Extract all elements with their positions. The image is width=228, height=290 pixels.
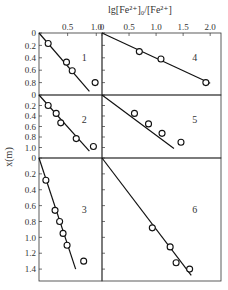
y-axis-title: x(m) bbox=[3, 147, 15, 166]
chart-canvas: lg[Fe²⁺]₀/[Fe²⁺]x(m)00.20.40.60.80.51.01… bbox=[0, 0, 228, 290]
data-point bbox=[159, 130, 165, 136]
data-point bbox=[173, 260, 179, 266]
x-tick-label: 1.0 bbox=[150, 22, 162, 32]
data-point bbox=[90, 143, 96, 149]
y-tick-label: 0.2 bbox=[25, 101, 36, 111]
data-point bbox=[45, 41, 51, 47]
panel-label: 6 bbox=[192, 204, 197, 215]
data-point bbox=[149, 225, 155, 231]
data-point bbox=[53, 110, 59, 116]
x-tick-label: 1.5 bbox=[178, 22, 190, 32]
panel-frame-4 bbox=[102, 33, 221, 95]
data-point bbox=[43, 177, 49, 183]
y-tick-label: 1.4 bbox=[25, 264, 37, 274]
y-tick-label: 0.6 bbox=[25, 122, 37, 132]
data-point bbox=[81, 258, 87, 264]
y-tick-label: 0 bbox=[32, 90, 37, 100]
data-point bbox=[158, 56, 164, 62]
data-point bbox=[131, 110, 137, 116]
panel-frame-3 bbox=[39, 158, 102, 281]
y-tick-label: 0.4 bbox=[25, 185, 37, 195]
y-tick-label: 0.6 bbox=[25, 201, 37, 211]
y-tick-label: 1.2 bbox=[25, 248, 36, 258]
data-point bbox=[203, 80, 209, 86]
data-point bbox=[73, 136, 79, 142]
panel-label: 1 bbox=[82, 52, 87, 63]
data-point bbox=[64, 242, 70, 248]
y-tick-label: 0.4 bbox=[25, 53, 37, 63]
y-tick-label: 0.6 bbox=[25, 65, 37, 75]
y-tick-label: 0.4 bbox=[25, 111, 37, 121]
x-tick-label: 0 bbox=[100, 22, 105, 32]
y-tick-label: 0.2 bbox=[25, 41, 36, 51]
panel-label: 2 bbox=[82, 114, 87, 125]
y-tick-label: 0.8 bbox=[25, 132, 37, 142]
data-point bbox=[69, 68, 75, 74]
data-point bbox=[92, 80, 98, 86]
fit-line bbox=[39, 158, 76, 269]
data-point bbox=[146, 121, 152, 127]
data-point bbox=[178, 139, 184, 145]
data-point bbox=[187, 266, 193, 272]
x-tick-label: 2.0 bbox=[205, 22, 217, 32]
x-tick-label: 0.5 bbox=[123, 22, 135, 32]
y-tick-label: 0.8 bbox=[25, 217, 37, 227]
x-axis-title: lg[Fe²⁺]₀/[Fe²⁺] bbox=[108, 4, 172, 15]
data-point bbox=[60, 230, 66, 236]
fit-line bbox=[102, 95, 174, 149]
x-tick-label: 0.5 bbox=[62, 22, 74, 32]
data-point bbox=[45, 103, 51, 109]
figure: lg[Fe²⁺]₀/[Fe²⁺]x(m)00.20.40.60.80.51.01… bbox=[0, 0, 228, 290]
y-tick-label: 0.8 bbox=[25, 78, 37, 88]
data-point bbox=[136, 49, 142, 55]
data-point bbox=[52, 207, 58, 213]
panel-label: 3 bbox=[82, 204, 87, 215]
data-point bbox=[57, 218, 63, 224]
data-point bbox=[167, 244, 173, 250]
y-tick-label: 1.0 bbox=[25, 143, 37, 153]
y-tick-label: 0 bbox=[32, 28, 37, 38]
panel-label: 5 bbox=[192, 114, 197, 125]
y-tick-label: 1.0 bbox=[25, 233, 37, 243]
y-tick-label: 0.2 bbox=[25, 169, 36, 179]
data-point bbox=[58, 120, 64, 126]
y-tick-label: 0 bbox=[32, 153, 37, 163]
panel-frame-5 bbox=[102, 95, 221, 158]
fit-line bbox=[102, 158, 191, 275]
panel-label: 4 bbox=[192, 52, 197, 63]
panel-frame-6 bbox=[102, 158, 221, 281]
data-point bbox=[63, 59, 69, 65]
